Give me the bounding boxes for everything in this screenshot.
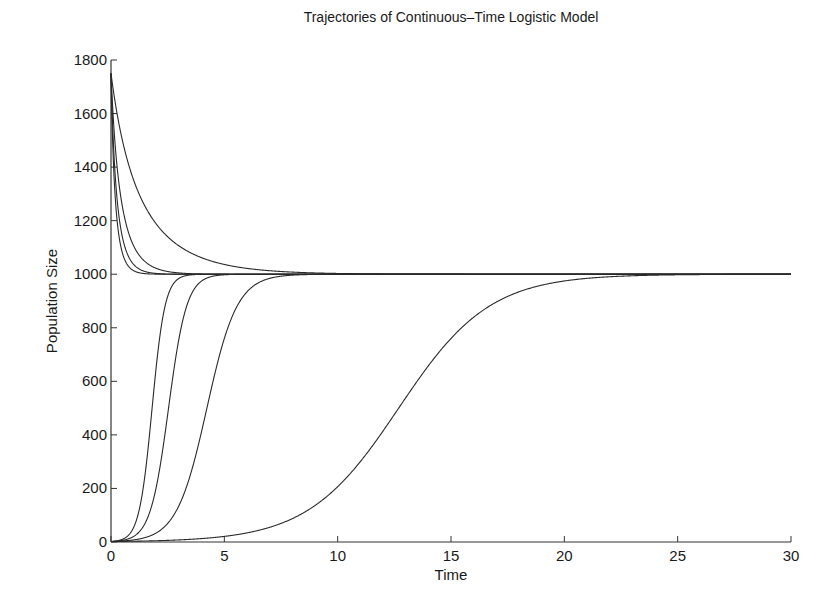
trajectory-line bbox=[111, 73, 791, 274]
y-tick-label: 0 bbox=[99, 533, 107, 550]
y-tick-label: 400 bbox=[82, 426, 107, 443]
chart-title: Trajectories of Continuous–Time Logistic… bbox=[304, 9, 599, 25]
logistic-model-chart: Trajectories of Continuous–Time Logistic… bbox=[0, 0, 838, 607]
x-tick-label: 0 bbox=[107, 547, 115, 564]
x-tick-label: 25 bbox=[669, 547, 686, 564]
trajectory-line bbox=[111, 73, 791, 274]
y-tick-label: 600 bbox=[82, 372, 107, 389]
trajectory-line bbox=[111, 274, 791, 541]
trajectory-line bbox=[111, 274, 791, 541]
y-tick-label: 1800 bbox=[74, 51, 107, 68]
x-tick-label: 5 bbox=[220, 547, 228, 564]
x-tick-label: 20 bbox=[556, 547, 573, 564]
trajectory-line bbox=[111, 73, 791, 274]
axes bbox=[111, 60, 791, 542]
x-axis-label: Time bbox=[435, 566, 468, 583]
y-tick-label: 800 bbox=[82, 319, 107, 336]
y-tick-label: 1200 bbox=[74, 212, 107, 229]
y-axis-label: Population Size bbox=[43, 249, 60, 353]
y-tick-label: 1000 bbox=[74, 265, 107, 282]
y-tick-label: 1400 bbox=[74, 158, 107, 175]
x-tick-label: 30 bbox=[783, 547, 800, 564]
trajectory-curves bbox=[111, 73, 791, 541]
x-tick-label: 10 bbox=[329, 547, 346, 564]
trajectory-line bbox=[111, 274, 791, 541]
y-tick-label: 1600 bbox=[74, 105, 107, 122]
trajectory-line bbox=[111, 73, 791, 274]
x-ticks: 051015202530 bbox=[107, 536, 800, 564]
trajectory-line bbox=[111, 274, 791, 541]
x-tick-label: 15 bbox=[443, 547, 460, 564]
y-tick-label: 200 bbox=[82, 479, 107, 496]
